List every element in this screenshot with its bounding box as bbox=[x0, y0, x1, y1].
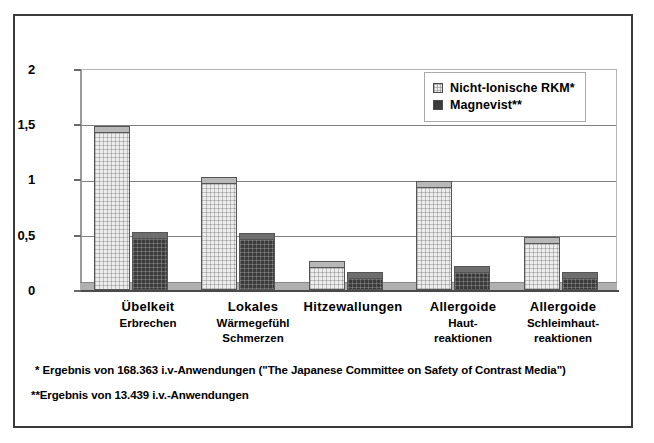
bar-front-face bbox=[454, 272, 490, 290]
ytick-label-0: 0 bbox=[28, 283, 35, 298]
ytick-label-1: 1 bbox=[28, 172, 35, 187]
bar-front-face bbox=[132, 238, 168, 290]
ytick-mark-0 bbox=[74, 290, 81, 292]
bar-front-face bbox=[524, 243, 560, 290]
category-label-4-line1: Allergoide bbox=[483, 299, 643, 314]
bar-front-face bbox=[94, 132, 130, 290]
footnote-secondary: **Ergebnis von 13.439 i.v.-Anwendungen bbox=[31, 389, 249, 401]
x-axis-line bbox=[78, 290, 619, 292]
bar-front-face bbox=[309, 267, 345, 290]
ytick-label-1-5: 1,5 bbox=[18, 117, 35, 132]
bar-front-face bbox=[416, 187, 452, 290]
bar-series-2-category-1 bbox=[132, 232, 168, 290]
bar-series-2-category-3 bbox=[347, 272, 383, 290]
bar-series-1-category-1 bbox=[94, 126, 130, 290]
bar-series-1-category-5 bbox=[524, 237, 560, 290]
bar-series-1-category-4 bbox=[416, 181, 452, 290]
bar-front-face bbox=[347, 278, 383, 290]
bar-front-face bbox=[201, 183, 237, 290]
legend-label-series-b: Magnevist** bbox=[450, 98, 522, 112]
legend-label-series-a: Nicht-Ionische RKM* bbox=[450, 81, 575, 95]
legend-swatch-light-icon bbox=[433, 83, 443, 93]
category-label-1-line2: Wärmegefühl bbox=[168, 317, 338, 329]
bar-front-face bbox=[239, 239, 275, 290]
category-label-4-line3: reaktionen bbox=[483, 332, 643, 344]
bar-series-2-category-2 bbox=[239, 233, 275, 290]
legend-item-magnevist: Magnevist** bbox=[433, 98, 575, 112]
category-label-1-line3: Schmerzen bbox=[168, 332, 338, 344]
bar-series-2-category-4 bbox=[454, 266, 490, 290]
bar-series-2-category-5 bbox=[562, 272, 598, 290]
chart-figure: 2 1,5 1 0,5 0 Nicht-Ionische RKM* Magnev… bbox=[13, 14, 633, 428]
ytick-label-0-5: 0,5 bbox=[18, 228, 35, 243]
legend-swatch-dark-icon bbox=[433, 100, 443, 110]
bar-series-1-category-3 bbox=[309, 261, 345, 290]
category-label-4: Allergoide Schleimhaut- reaktionen bbox=[483, 299, 643, 344]
ytick-label-2: 2 bbox=[28, 62, 35, 77]
legend-item-nicht-ionische-rkm: Nicht-Ionische RKM* bbox=[433, 81, 575, 95]
bar-series-1-category-2 bbox=[201, 177, 237, 290]
chart-legend: Nicht-Ionische RKM* Magnevist** bbox=[424, 72, 586, 122]
footnote-primary: * Ergebnis von 168.363 i.v-Anwendungen (… bbox=[35, 364, 566, 376]
category-label-4-line2: Schleimhaut- bbox=[483, 317, 643, 329]
bar-front-face bbox=[562, 278, 598, 290]
